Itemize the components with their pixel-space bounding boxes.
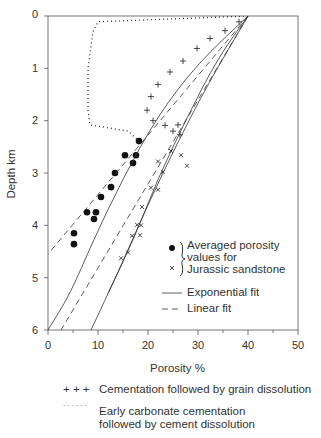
note-dot-symbol: · · · · · ·: [63, 402, 87, 409]
legend-averaged-line2: values for: [187, 251, 237, 263]
data-point-cross: [140, 205, 144, 209]
x-tick-50: 50: [292, 339, 304, 351]
legend-linear-fit: Linear fit: [187, 302, 231, 314]
legend-averaged-line1: Averaged porosity: [187, 239, 279, 251]
x-tick-30: 30: [192, 339, 204, 351]
y-tick-0: 0: [32, 8, 38, 20]
plot-frame: [48, 16, 298, 330]
data-point-dot: [122, 152, 129, 159]
data-point-dot: [112, 170, 119, 177]
data-point-cross: [156, 159, 160, 163]
data-point-plus: [148, 94, 154, 100]
data-point-plus: [162, 122, 168, 128]
x-tick-10: 10: [92, 339, 104, 351]
data-point-cross: [179, 153, 183, 157]
y-tick-2: 2: [32, 114, 38, 126]
data-point-cross: [138, 233, 142, 237]
data-point-dot: [71, 230, 78, 237]
data-point-plus: [207, 36, 213, 42]
x-tick-0: 0: [45, 339, 51, 351]
data-point-plus: [194, 45, 200, 51]
data-point-dot: [93, 209, 100, 216]
y-tick-5: 5: [32, 272, 38, 284]
legend-brace-icon: [180, 242, 185, 276]
x-tick-40: 40: [242, 339, 254, 351]
linear-fit-line: [48, 16, 248, 254]
data-point-plus: [170, 128, 176, 134]
data-point-cross: [149, 186, 153, 190]
data-point-cross: [185, 164, 189, 168]
carbonate-cementation-path: [88, 16, 248, 141]
data-point-cross: [119, 256, 123, 260]
data-point-dot: [98, 194, 105, 201]
data-point-plus: [167, 69, 173, 75]
y-tick-4: 4: [32, 219, 38, 231]
y-tick-3: 3: [32, 167, 38, 179]
legend-dot-icon: [169, 245, 175, 251]
note-plus-label: Cementation followed by grain dissolutio…: [99, 383, 311, 395]
data-point-plus: [180, 58, 186, 64]
data-point-dot: [91, 216, 98, 223]
legend-cross-icon: [170, 266, 174, 270]
data-point-dot: [71, 241, 78, 248]
note-dot-label-1: Early carbonate cementation: [99, 405, 245, 417]
data-point-plus: [144, 107, 150, 113]
data-point-dot: [108, 184, 115, 191]
y-tick-6: 6: [32, 324, 38, 336]
exponential-fit-line: [48, 16, 248, 330]
y-axis-label: Depth km: [5, 149, 17, 198]
data-point-plus: [155, 82, 161, 88]
legend-exponential-fit: Exponential fit: [187, 286, 259, 298]
y-tick-1: 1: [32, 62, 38, 74]
legend-averaged-line3: Jurassic sandstone: [187, 263, 285, 275]
note-dot-label-2: followed by cement dissolution: [99, 418, 255, 430]
data-point-plus: [175, 122, 181, 128]
x-axis-label: Porosity %: [150, 362, 205, 374]
data-point-plus: [222, 28, 228, 34]
x-tick-20: 20: [142, 339, 154, 351]
note-plus-symbol: + + +: [63, 383, 90, 395]
data-point-cross: [156, 188, 160, 192]
